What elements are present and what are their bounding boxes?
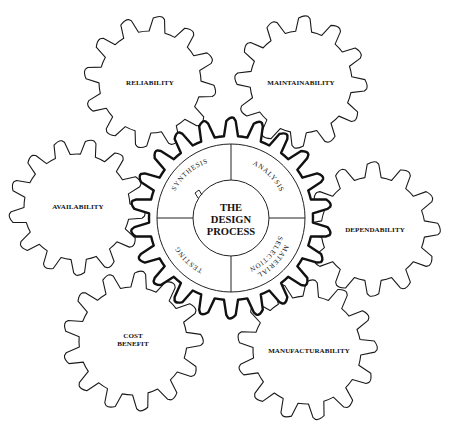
center-title-line-2: DESIGN xyxy=(211,214,252,225)
gear-cost-benefit-label-line-2: BENEFIT xyxy=(117,340,149,348)
design-process-gear-diagram: RELIABILITY MAINTAINABILITY AVAILABILITY… xyxy=(0,0,453,427)
gear-maintainability-label: MAINTAINABILITY xyxy=(267,79,335,87)
gear-reliability-label: RELIABILITY xyxy=(126,79,174,87)
gear-reliability: RELIABILITY xyxy=(84,16,215,147)
center-title-line-3: PROCESS xyxy=(207,226,256,237)
gear-cost-benefit-label-line-1: COST xyxy=(123,332,143,340)
center-title-line-1: THE xyxy=(220,202,242,213)
gear-availability-label: AVAILABILITY xyxy=(52,203,104,211)
gear-dependability-label: DEPENDABILITY xyxy=(345,226,405,234)
gear-availability: AVAILABILITY xyxy=(9,140,145,275)
gear-manufacturability-label: MANUFACTURABILITY xyxy=(268,347,350,355)
